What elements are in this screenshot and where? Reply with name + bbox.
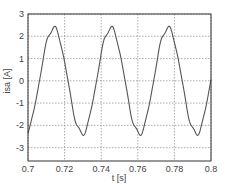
x-tick-label: 0.78	[166, 164, 184, 174]
x-tick-label: 0.8	[205, 164, 218, 174]
y-tick-label: -3	[16, 143, 24, 153]
y-axis-label: isa [A]	[2, 68, 12, 93]
x-tick-label: 0.72	[56, 164, 74, 174]
y-tick-label: 1	[19, 54, 24, 64]
y-axis-ticks: 3210-1-2-3	[16, 9, 24, 153]
y-tick-label: 3	[19, 9, 24, 19]
y-tick-label: -1	[16, 98, 24, 108]
x-axis-label: t [s]	[112, 173, 127, 183]
x-tick-label: 0.76	[129, 164, 147, 174]
y-tick-label: 0	[19, 76, 24, 86]
x-tick-label: 0.7	[22, 164, 35, 174]
line-chart: 0.70.720.740.760.780.8 3210-1-2-3 t [s] …	[0, 0, 225, 187]
y-tick-label: -2	[16, 120, 24, 130]
y-tick-label: 2	[19, 31, 24, 41]
x-tick-label: 0.74	[92, 164, 110, 174]
